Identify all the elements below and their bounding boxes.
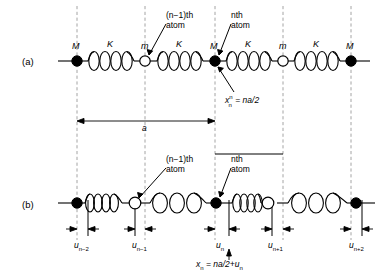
panel-b: (b) <box>22 154 375 271</box>
displacement-marker-n-minus-1 <box>124 227 156 232</box>
atom-heavy-b-1 <box>72 198 82 208</box>
atom-heavy-b-2 <box>211 198 221 208</box>
callout-b-n-minus-1-line1: (n−1)th <box>166 154 193 164</box>
spring-b-3 <box>232 194 262 212</box>
spring-a-1 <box>88 52 134 71</box>
label-u-n: un <box>216 240 224 252</box>
atom-heavy-a-3 <box>346 56 356 66</box>
label-u-n-plus-2: un+2 <box>349 240 365 252</box>
label-spring-K-3: K <box>245 39 252 49</box>
label-mass-M-2: M <box>210 41 218 51</box>
equation-b-rest: = na/2+u <box>204 259 240 269</box>
label-u-n-plus-1-sub: n+1 <box>273 246 284 252</box>
displacement-markers <box>66 227 373 232</box>
label-spring-K-4: K <box>313 39 320 49</box>
displacement-marker-n <box>204 227 240 232</box>
displacement-marker-n-plus-2 <box>340 227 373 232</box>
callout-a-n-line1: nth <box>231 10 243 20</box>
atom-heavy-b-3 <box>351 198 361 208</box>
callout-a-n-leader <box>218 24 231 55</box>
label-mass-M-3: M <box>346 41 354 51</box>
label-spring-K-1: K <box>107 39 114 49</box>
label-spring-K-2: K <box>176 39 183 49</box>
equation-a-rest: = na/2 <box>233 95 260 105</box>
label-u-n-minus-1-sub: n−1 <box>137 246 148 252</box>
spring-b-4 <box>288 193 347 213</box>
callout-b-n-line1: nth <box>231 154 243 164</box>
label-u-n-plus-1: un+1 <box>268 240 284 252</box>
panel-a: (a) <box>22 10 370 133</box>
callout-a-n-minus-1-line1: (n−1)th <box>166 10 193 20</box>
spring-a-3 <box>226 52 272 71</box>
label-u-n-plus-2-sub: n+2 <box>354 246 365 252</box>
equation-b-position: xn = na/2+un <box>195 259 243 271</box>
label-u-n-minus-2: un−2 <box>74 240 90 252</box>
atom-light-a-2 <box>278 56 288 66</box>
callout-a-n-line2: atom <box>231 20 250 30</box>
equation-b-rest-sub: n <box>240 265 243 271</box>
displacement-marker-n-minus-2 <box>66 227 99 232</box>
label-u-n-minus-1: un−1 <box>132 240 148 252</box>
label-mass-M-1: M <box>72 41 80 51</box>
callout-a-n-minus-1-line2: atom <box>166 20 185 30</box>
label-mass-m-2: m <box>279 41 287 51</box>
label-u-n-sub: n <box>221 246 224 252</box>
lattice-vibration-figure: (a) <box>0 0 389 274</box>
callout-b-n-minus-1-line2: atom <box>166 164 185 174</box>
atom-light-a-1 <box>140 56 150 66</box>
spring-b-2 <box>150 193 206 213</box>
displacement-marker-n-plus-1 <box>261 227 294 232</box>
panel-b-label: (b) <box>22 199 34 210</box>
equation-a-sub: n <box>229 102 232 108</box>
spring-a-4 <box>294 52 340 71</box>
spring-b-1 <box>85 194 122 212</box>
atom-light-b-2 <box>262 197 274 209</box>
callout-b-n-line2: atom <box>231 164 250 174</box>
label-u-n-minus-2-sub: n−2 <box>79 246 90 252</box>
atom-light-b-1 <box>129 197 141 209</box>
callout-b-n-leader <box>219 168 231 197</box>
callout-a-n-minus-1-leader <box>147 24 166 55</box>
equation-a-position: xnn = na/2 <box>224 94 259 107</box>
dimension-lattice-label: a <box>142 123 147 133</box>
spring-a-2 <box>157 52 203 71</box>
panel-a-label: (a) <box>22 56 34 67</box>
atom-heavy-a-2 <box>210 56 220 66</box>
atom-heavy-a-1 <box>72 56 82 66</box>
